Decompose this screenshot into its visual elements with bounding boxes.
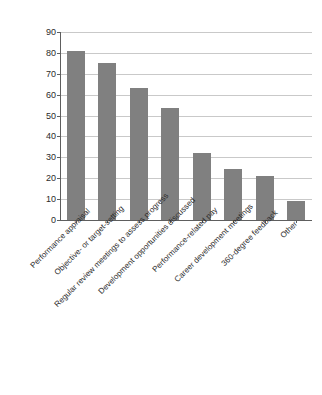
- y-axis-tick-label: 20: [34, 174, 56, 183]
- y-axis-tick-label: 10: [34, 195, 56, 204]
- y-axis-tick-label: 50: [34, 112, 56, 121]
- y-axis-tick-label: 90: [34, 28, 56, 37]
- bar: [161, 108, 179, 220]
- bar: [67, 51, 85, 220]
- y-axis-tick-label: 0: [34, 216, 56, 225]
- x-axis-tick-label: Other: [280, 220, 300, 240]
- y-axis-tick-label: 30: [34, 153, 56, 162]
- bar: [256, 176, 274, 220]
- y-axis-tick-label: 70: [34, 70, 56, 79]
- bar: [224, 169, 242, 220]
- bar-series: [60, 32, 312, 220]
- y-axis-tick-label: 80: [34, 49, 56, 58]
- bar: [98, 63, 116, 220]
- bar-chart: 9080706050403020100 Performance appraisa…: [0, 0, 322, 395]
- bar: [130, 88, 148, 220]
- bar: [287, 201, 305, 220]
- x-axis-line: [60, 220, 312, 221]
- bar: [193, 153, 211, 220]
- y-axis-tick-label: 40: [34, 132, 56, 141]
- y-axis-tick-label: 60: [34, 91, 56, 100]
- y-axis-labels: 9080706050403020100: [0, 0, 56, 395]
